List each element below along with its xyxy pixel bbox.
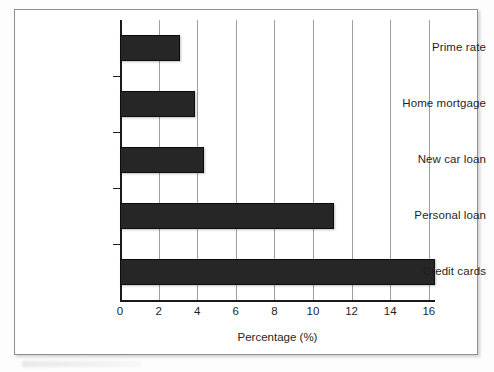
x-tick-label: 2	[155, 305, 161, 317]
x-tick-label: 8	[271, 305, 277, 317]
y-tick-label: New car loan	[382, 153, 494, 165]
y-tick-label: Home mortgage	[382, 97, 494, 109]
x-axis-line	[120, 300, 435, 302]
y-axis-tick	[113, 188, 120, 189]
gridline-10	[313, 20, 314, 300]
x-tick-label: 14	[384, 305, 397, 317]
x-tick-label: 4	[194, 305, 200, 317]
bar-personal-loan	[120, 203, 334, 229]
bar-prime-rate	[120, 35, 180, 61]
x-tick-label: 16	[422, 305, 435, 317]
y-axis-tick	[113, 244, 120, 245]
chart-figure: Percentage (%) 0246810121416Prime rateHo…	[0, 0, 494, 372]
bar-new-car-loan	[120, 147, 204, 173]
x-tick-label: 6	[233, 305, 239, 317]
gridline-6	[236, 20, 237, 300]
y-axis-tick	[113, 132, 120, 133]
y-tick-label: Personal loan	[382, 209, 494, 221]
x-tick-label: 10	[307, 305, 320, 317]
x-tick-label: 12	[345, 305, 358, 317]
gridline-8	[274, 20, 275, 300]
y-axis-tick	[113, 76, 120, 77]
y-tick-label: Credit cards	[382, 265, 494, 277]
y-tick-label: Prime rate	[382, 41, 494, 53]
x-axis-title: Percentage (%)	[120, 331, 435, 343]
gridline-12	[352, 20, 353, 300]
bar-home-mortgage	[120, 91, 195, 117]
x-tick-label: 0	[117, 305, 123, 317]
scan-artifact	[22, 361, 142, 367]
